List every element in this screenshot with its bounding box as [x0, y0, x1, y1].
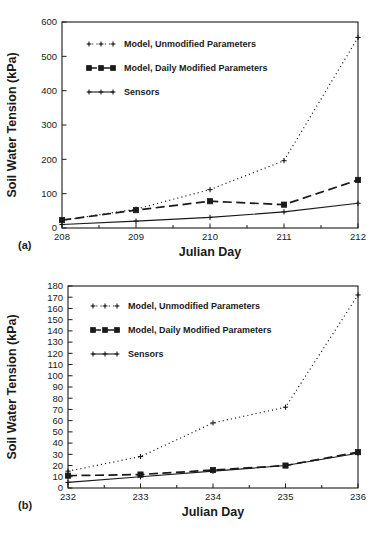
y-axis-title: Soil Water Tension (kPa)	[5, 52, 19, 197]
y-axis-tick-label: 110	[48, 359, 63, 370]
legend-entry: Model, Daily Modified Parameters	[91, 325, 272, 335]
y-axis-tick-label: 170	[47, 292, 63, 303]
legend-label: Model, Daily Modified Parameters	[124, 63, 268, 73]
y-axis-tick-label: 140	[47, 325, 63, 336]
legend-marker	[115, 328, 120, 333]
y-axis-tick-label: 600	[41, 16, 57, 27]
panel-b-tag: (b)	[18, 499, 32, 511]
y-axis-tick-label: 70	[52, 404, 63, 415]
y-axis-tick-label: 180	[47, 280, 63, 291]
chart-panel-a: 0100200300400500600208209210211212Julian…	[0, 0, 378, 266]
y-axis-tick-label: 130	[47, 336, 63, 347]
y-axis-tick-label: 300	[41, 119, 57, 130]
x-axis-tick-label: 210	[202, 231, 218, 242]
y-axis-tick-label: 60	[52, 415, 63, 426]
x-axis-tick-label: 209	[128, 231, 144, 242]
y-axis-tick-label: 90	[52, 381, 63, 392]
legend-marker	[91, 328, 96, 333]
legend-marker	[103, 328, 108, 333]
y-axis-tick-label: 10	[52, 471, 63, 482]
x-axis-tick-label: 208	[54, 231, 70, 242]
x-axis-tick-label: 235	[278, 491, 294, 502]
y-axis-tick-label: 120	[47, 348, 63, 359]
legend-entry: Model, Unmodified Parameters	[91, 301, 260, 311]
plot-frame	[62, 22, 358, 228]
y-axis-tick-label: 150	[47, 314, 63, 325]
legend-entry: Sensors	[87, 87, 160, 97]
legend-label: Model, Unmodified Parameters	[124, 39, 256, 49]
x-axis-tick-label: 232	[60, 491, 76, 502]
y-axis-tick-label: 40	[52, 437, 63, 448]
y-axis-tick-label: 80	[52, 393, 63, 404]
legend-label: Model, Daily Modified Parameters	[128, 325, 272, 335]
x-axis-tick-label: 234	[205, 491, 221, 502]
legend-marker	[87, 66, 92, 71]
x-axis-tick-label: 236	[350, 491, 366, 502]
chart-panel-a-svg: 0100200300400500600208209210211212Julian…	[0, 0, 378, 266]
legend-marker	[111, 66, 116, 71]
x-axis-tick-label: 211	[276, 231, 291, 242]
y-axis-tick-label: 100	[47, 370, 63, 381]
data-point-marker	[133, 208, 138, 213]
x-axis-title: Julian Day	[182, 505, 245, 519]
y-axis-tick-label: 30	[52, 449, 63, 460]
panel-a-tag: (a)	[18, 239, 31, 251]
x-axis-tick-label: 233	[133, 491, 149, 502]
legend-entry: Model, Unmodified Parameters	[87, 39, 256, 49]
y-axis-tick-label: 160	[47, 303, 63, 314]
chart-panel-b-svg: 0102030405060708090100110120130140150160…	[0, 266, 378, 533]
series-0	[65, 292, 360, 473]
legend-label: Sensors	[128, 349, 164, 359]
series-line	[68, 295, 358, 471]
data-point-marker	[355, 177, 360, 182]
legend-entry: Model, Daily Modified Parameters	[87, 63, 268, 73]
legend-marker	[99, 66, 104, 71]
y-axis-tick-label: 400	[41, 85, 57, 96]
x-axis-title: Julian Day	[179, 245, 242, 259]
y-axis-tick-label: 100	[41, 188, 57, 199]
figure-two-panel-chart: 0100200300400500600208209210211212Julian…	[0, 0, 378, 533]
y-axis-tick-label: 500	[41, 51, 57, 62]
x-axis-tick-label: 212	[350, 231, 366, 242]
y-axis-tick-label: 50	[52, 426, 63, 437]
data-point-marker	[281, 202, 286, 207]
y-axis-tick-label: 200	[41, 154, 57, 165]
legend-entry: Sensors	[91, 349, 164, 359]
legend-label: Model, Unmodified Parameters	[128, 301, 260, 311]
y-axis-title: Soil Water Tension (kPa)	[5, 314, 19, 459]
plot-frame	[68, 286, 358, 488]
series-1	[65, 449, 360, 478]
data-point-marker	[59, 218, 64, 223]
chart-panel-b: 0102030405060708090100110120130140150160…	[0, 266, 378, 533]
y-axis-tick-label: 20	[52, 460, 63, 471]
data-point-marker	[207, 199, 212, 204]
data-point-marker	[65, 473, 70, 478]
legend-label: Sensors	[124, 87, 160, 97]
